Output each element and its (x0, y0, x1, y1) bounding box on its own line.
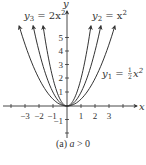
label-y1-fraction: 1 2 x2 (128, 66, 144, 80)
label-y3: y3 = 2x2 (23, 9, 65, 23)
y-tick-label: −1 (53, 116, 63, 126)
figure-caption: (a) a > 0 (0, 138, 146, 149)
x-tick-label: −3 (20, 111, 30, 121)
y-tick-label: 3 (59, 60, 64, 70)
svg-text:2: 2 (128, 73, 132, 80)
y-tick-label: 1 (59, 87, 64, 97)
y-axis-label: y (62, 0, 69, 9)
y-tick-label: 2 (59, 73, 64, 83)
x-tick-label: −2 (34, 111, 44, 121)
x-tick-label: 2 (93, 111, 98, 121)
label-y2: y2 = x2 (91, 9, 127, 23)
y-tick-label: 5 (59, 33, 64, 43)
svg-text:1: 1 (128, 66, 132, 73)
x-tick-label: 3 (107, 111, 112, 121)
y-tick-label: 4 (59, 46, 64, 56)
label-y1: y1 = (101, 68, 124, 81)
x-axis-label: x (139, 101, 145, 112)
x-tick-label: 1 (79, 111, 84, 121)
svg-text:x2: x2 (133, 67, 144, 79)
